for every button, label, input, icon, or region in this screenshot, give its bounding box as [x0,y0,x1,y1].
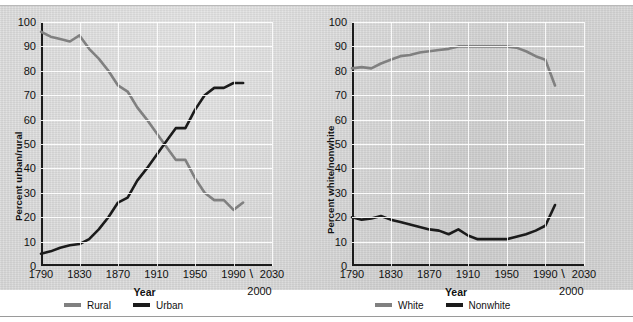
chart-urban-rural: Percent urban/rural 01020304050607080901… [0,6,316,290]
legend-item-white[interactable]: White [375,300,424,311]
y-axis-tick-label: 60 [10,114,36,126]
gridline-vertical [272,22,273,266]
x-axis-tick-label: 2030 [572,268,596,280]
y-axis-tick-label: 30 [10,187,36,199]
legend-swatch-icon [375,303,392,307]
chart-page: Percent urban/rural 01020304050607080901… [0,0,633,322]
x-axis-tick-label: 1910 [456,268,480,280]
legend-swatch-icon [64,303,81,307]
line-series-rural [41,32,243,210]
x-axis-tick-label: 1870 [106,268,130,280]
y-axis-tick-label: 90 [321,40,347,52]
x-axis-tick-label: 1950 [183,268,207,280]
legend-label: Rural [87,300,111,311]
y-axis-tick-label: 60 [321,114,347,126]
legend-swatch-icon [446,303,463,307]
y-axis-tick-label: 40 [321,162,347,174]
year-2000-pointer-right: \ [561,267,565,280]
gridline-vertical [391,22,392,266]
plot-area-left: 0102030405060708090100 [41,22,272,266]
line-series-white [352,46,555,85]
gridline-vertical [195,22,196,266]
x-axis-tick-label: 1790 [29,268,53,280]
y-axis-tick-label: 40 [10,162,36,174]
y-axis-tick-label: 90 [10,40,36,52]
y-axis-tick-label: 100 [321,16,347,28]
gridline-vertical [118,22,119,266]
y-axis-tick-label: 20 [321,211,347,223]
year-2000-note-right: 2000 [559,285,583,297]
legend-label: Urban [156,300,183,311]
y-axis-tick-label: 10 [321,236,347,248]
x-axis-tick-label: 1950 [494,268,518,280]
gridline-vertical [80,22,81,266]
x-axis-tick-label: 1830 [67,268,91,280]
gridline-vertical [468,22,469,266]
y-axis-tick-label: 30 [321,187,347,199]
gridline-vertical [507,22,508,266]
y-axis-tick-label: 80 [321,65,347,77]
x-axis-tick-label: 1910 [144,268,168,280]
line-series-nonwhite [352,205,555,239]
plot-area-right: 0102030405060708090100 [352,22,584,266]
legend-item-urban[interactable]: Urban [133,300,183,311]
y-axis-tick-label: 50 [321,138,347,150]
x-axis-tick-label: 1790 [340,268,364,280]
year-2000-note-left: 2000 [247,285,271,297]
x-axis-tick-label: 2030 [260,268,284,280]
page-bottom-rule [0,316,633,317]
gridline-vertical [429,22,430,266]
y-axis-tick-label: 70 [321,89,347,101]
y-axis-tick-label: 70 [10,89,36,101]
x-axis-tick-label: 1830 [378,268,402,280]
x-axis-tick-label: 1870 [417,268,441,280]
legend-swatch-icon [133,303,150,307]
legend-label: Nonwhite [469,300,511,311]
chart-white-nonwhite: Percent white/nonwhite 01020304050607080… [316,6,633,290]
x-axis-tick-label: 1990 [221,268,245,280]
year-2000-pointer-left: \ [250,267,254,280]
legend-urban-rural: RuralUrban [64,296,205,314]
legend-item-nonwhite[interactable]: Nonwhite [446,300,511,311]
gridline-vertical [545,22,546,266]
legend-label: White [398,300,424,311]
y-axis-tick-label: 80 [10,65,36,77]
gridline-vertical [584,22,585,266]
legend-item-rural[interactable]: Rural [64,300,111,311]
legend-white-nonwhite: WhiteNonwhite [375,296,532,314]
gridline-vertical [234,22,235,266]
gridline-vertical [157,22,158,266]
x-axis-tick-label: 1990 [533,268,557,280]
y-axis-tick-label: 20 [10,211,36,223]
y-axis-tick-label: 10 [10,236,36,248]
y-axis-tick-label: 50 [10,138,36,150]
y-axis-tick-label: 100 [10,16,36,28]
